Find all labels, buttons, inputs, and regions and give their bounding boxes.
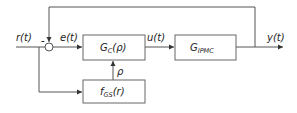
reference-label: r(t) [16, 32, 32, 43]
error-label: e(t) [60, 32, 78, 43]
schedule-label: ρ [117, 66, 124, 77]
block-diagram: - GC(ρ) GIPMC fGS(r) r(t) e(t) u(t) y(t)… [0, 0, 297, 113]
output-label: y(t) [266, 32, 285, 43]
control-label: u(t) [147, 32, 165, 43]
feedback-sign: - [41, 35, 45, 46]
scheduler-input-line [39, 47, 82, 92]
summing-junction [45, 43, 53, 51]
